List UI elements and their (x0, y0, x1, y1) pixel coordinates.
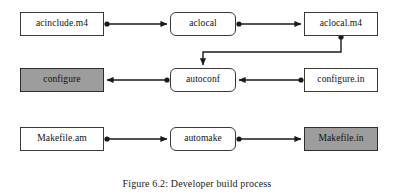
node-label: automake (184, 134, 222, 144)
edge-source-dot (164, 77, 169, 82)
figure-caption: Figure 6.2: Developer build process (0, 178, 394, 189)
node-label: Makefile.in (318, 134, 363, 144)
node-label: aclocal.m4 (320, 19, 362, 29)
node-makefile-am[interactable]: Makefile.am (20, 127, 104, 151)
node-label: aclocal (189, 19, 217, 29)
node-aclocal-m4[interactable]: aclocal.m4 (304, 12, 378, 36)
node-aclocal[interactable]: aclocal (170, 12, 236, 36)
edge-source-dot (298, 77, 303, 82)
node-label: autoconf (186, 75, 220, 85)
node-label: Makefile.am (37, 134, 86, 144)
node-autoconf[interactable]: autoconf (170, 68, 236, 92)
edge-source-dot (236, 136, 241, 141)
edge-aclocal-m4-to-autoconf (203, 37, 341, 65)
node-label: configure.in (317, 75, 364, 85)
node-automake[interactable]: automake (170, 127, 236, 151)
node-label: acinclude.m4 (36, 19, 88, 29)
node-makefile-in[interactable]: Makefile.in (304, 127, 378, 151)
node-label: configure (43, 75, 80, 85)
node-configure[interactable]: configure (20, 68, 104, 92)
node-configure-in[interactable]: configure.in (304, 68, 378, 92)
edge-source-dot (236, 21, 241, 26)
node-acinclude-m4[interactable]: acinclude.m4 (20, 12, 104, 36)
figure-developer-build-process: acinclude.m4 aclocal aclocal.m4 configur… (0, 0, 394, 195)
edge-source-dot (104, 136, 109, 141)
edge-source-dot (104, 21, 109, 26)
